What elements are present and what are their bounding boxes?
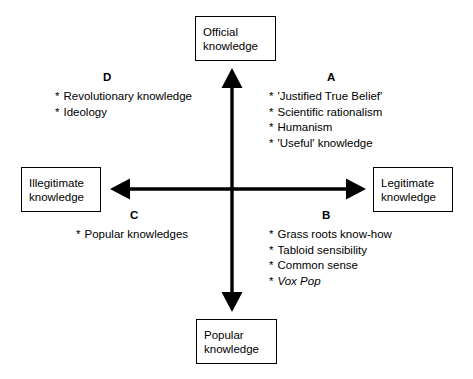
diagram-canvas: Official knowledge Popular knowledge Ill… <box>0 0 473 379</box>
quadrant-b-list: *Grass roots know-how*Tabloid sensibilit… <box>269 227 392 289</box>
quadrant-list-item: *Popular knowledges <box>76 227 188 243</box>
arrowhead-left-icon <box>110 179 130 200</box>
axis-box-popular-line1: Popular <box>204 328 269 342</box>
asterisk-bullet-icon: * <box>269 90 273 102</box>
asterisk-bullet-icon: * <box>76 228 80 240</box>
quadrant-list-item-label: Common sense <box>277 259 358 271</box>
quadrant-list-item-label: Scientific rationalism <box>277 106 382 118</box>
quadrant-list-item-label: Ideology <box>63 106 106 118</box>
quadrant-list-item: *Common sense <box>269 258 392 274</box>
axis-box-legitimate-line2: knowledge <box>381 190 445 204</box>
quadrant-list-item: *Scientific rationalism <box>269 105 382 121</box>
axis-box-official: Official knowledge <box>195 16 276 61</box>
axis-box-illegitimate-line1: Illegitimate <box>29 176 93 190</box>
arrowhead-up-icon <box>222 68 243 88</box>
asterisk-bullet-icon: * <box>269 137 273 149</box>
asterisk-bullet-icon: * <box>269 244 273 256</box>
quadrant-list-item-label: Popular knowledges <box>84 228 188 240</box>
quadrant-b-letter: B <box>322 209 392 222</box>
axis-box-official-line1: Official <box>203 25 268 39</box>
quadrant-d: D *Revolutionary knowledge*Ideology <box>55 71 192 120</box>
quadrant-a-letter: A <box>327 71 382 84</box>
quadrant-list-item: *Vox Pop <box>269 274 392 290</box>
asterisk-bullet-icon: * <box>269 275 273 287</box>
axis-box-popular-line2: knowledge <box>204 342 269 356</box>
quadrant-list-item-label: Humanism <box>277 121 332 133</box>
axis-box-popular: Popular knowledge <box>196 319 277 364</box>
arrowhead-right-icon <box>346 179 366 200</box>
quadrant-list-item-label: Tabloid sensibility <box>277 244 367 256</box>
quadrant-a: A *'Justified True Belief'*Scientific ra… <box>269 71 382 151</box>
quadrant-list-item: *'Justified True Belief' <box>269 89 382 105</box>
quadrant-a-list: *'Justified True Belief'*Scientific rati… <box>269 89 382 151</box>
quadrant-list-item: *Ideology <box>55 105 192 121</box>
asterisk-bullet-icon: * <box>55 106 59 118</box>
quadrant-list-item: *Revolutionary knowledge <box>55 89 192 105</box>
axis-box-legitimate-line1: Legitimate <box>381 176 445 190</box>
quadrant-d-list: *Revolutionary knowledge*Ideology <box>55 89 192 120</box>
axis-box-illegitimate-line2: knowledge <box>29 190 93 204</box>
asterisk-bullet-icon: * <box>269 121 273 133</box>
axis-box-illegitimate: Illegitimate knowledge <box>21 167 101 212</box>
asterisk-bullet-icon: * <box>269 259 273 271</box>
asterisk-bullet-icon: * <box>269 106 273 118</box>
quadrant-list-item-label: Grass roots know-how <box>277 228 391 240</box>
quadrant-c-list: *Popular knowledges <box>76 227 188 243</box>
arrowhead-down-icon <box>222 292 243 312</box>
quadrant-list-item-label: Revolutionary knowledge <box>63 90 192 102</box>
quadrant-c: C *Popular knowledges <box>76 209 188 243</box>
asterisk-bullet-icon: * <box>55 90 59 102</box>
quadrant-list-item: *Humanism <box>269 120 382 136</box>
quadrant-list-item-label: Vox Pop <box>277 275 320 287</box>
quadrant-c-letter: C <box>130 209 188 222</box>
quadrant-d-letter: D <box>103 71 192 84</box>
quadrant-list-item: *'Useful' knowledge <box>269 136 382 152</box>
quadrant-list-item: *Grass roots know-how <box>269 227 392 243</box>
quadrant-b: B *Grass roots know-how*Tabloid sensibil… <box>269 209 392 289</box>
axis-box-legitimate: Legitimate knowledge <box>373 167 453 212</box>
axis-box-official-line2: knowledge <box>203 39 268 53</box>
quadrant-list-item-label: 'Justified True Belief' <box>277 90 382 102</box>
asterisk-bullet-icon: * <box>269 228 273 240</box>
quadrant-list-item: *Tabloid sensibility <box>269 243 392 259</box>
quadrant-list-item-label: 'Useful' knowledge <box>277 137 372 149</box>
